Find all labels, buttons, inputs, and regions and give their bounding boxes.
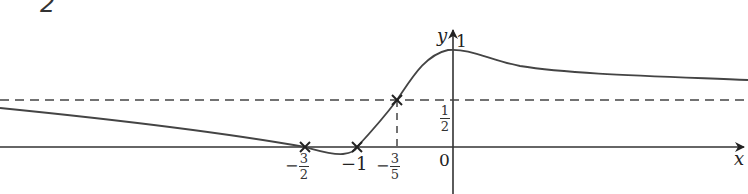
tick-neg-1: −1 <box>341 155 368 173</box>
x-axis-label: x <box>734 150 744 168</box>
function-graph <box>0 0 748 194</box>
tick-neg-3-2-sign: − <box>285 156 298 175</box>
tick-neg-3-5: 3 5 <box>390 152 400 181</box>
origin-label: 0 <box>439 152 450 169</box>
tick-neg-3-5-sign: − <box>376 156 389 175</box>
half-num: 1 <box>441 104 449 117</box>
function-curve <box>0 50 748 154</box>
y-axis-label: y <box>437 27 447 45</box>
tick-neg-3-2: 3 2 <box>299 152 309 181</box>
tick-den: 5 <box>391 168 399 181</box>
max-label: 1 <box>456 33 467 50</box>
tick-num: 3 <box>300 152 308 165</box>
half-den: 2 <box>441 120 449 133</box>
tick-den: 2 <box>300 168 308 181</box>
half-label: 1 2 <box>440 104 450 133</box>
tick-num: 3 <box>391 152 399 165</box>
figure-number: 2 <box>40 0 55 16</box>
